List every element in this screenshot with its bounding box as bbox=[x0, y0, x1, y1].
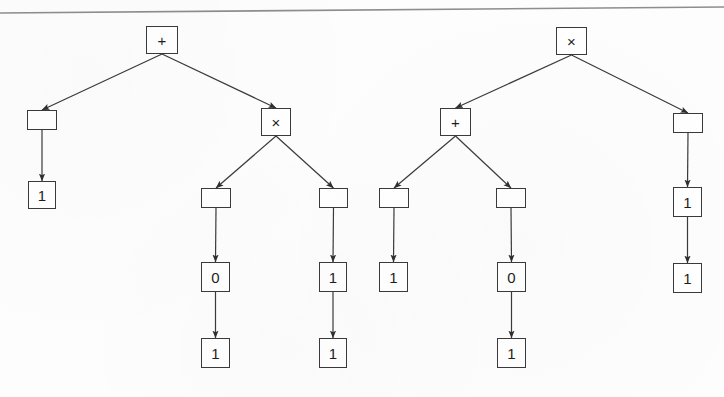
tree-node-leaf-1[interactable]: 1 bbox=[497, 338, 526, 368]
tree-node-label: + bbox=[158, 33, 167, 48]
tree-node-operator-times[interactable]: × bbox=[261, 108, 291, 136]
tree-edge bbox=[456, 136, 512, 188]
tree-edge bbox=[688, 133, 689, 187]
tree-node-label: 0 bbox=[211, 270, 219, 285]
tree-node-operator-plus[interactable]: + bbox=[146, 26, 178, 54]
tree-edge bbox=[456, 55, 572, 108]
tree-edge bbox=[216, 136, 276, 188]
tree-node-leaf-1[interactable]: 1 bbox=[201, 338, 230, 368]
tree-node-leaf-0[interactable]: 0 bbox=[201, 262, 230, 292]
edge-layer bbox=[0, 0, 724, 397]
tree-edge bbox=[162, 54, 276, 108]
tree-edge bbox=[42, 54, 162, 110]
tree-node-leaf-1[interactable]: 1 bbox=[28, 181, 56, 209]
tree-node-label: 1 bbox=[683, 195, 691, 210]
tree-node-blank[interactable] bbox=[379, 188, 409, 208]
tree-node-label: 1 bbox=[329, 346, 337, 361]
tree-node-label: 1 bbox=[683, 271, 691, 286]
tree-node-leaf-1[interactable]: 1 bbox=[379, 262, 408, 292]
tree-edge bbox=[276, 136, 334, 188]
tree-node-label: 1 bbox=[507, 346, 515, 361]
tree-edge bbox=[572, 55, 689, 113]
tree-node-label: 1 bbox=[211, 346, 219, 361]
tree-edge bbox=[394, 136, 456, 188]
tree-node-operator-plus[interactable]: + bbox=[440, 108, 471, 136]
tree-node-blank[interactable] bbox=[27, 110, 57, 130]
top-scan-line bbox=[0, 7, 724, 13]
tree-node-label: + bbox=[451, 115, 460, 130]
tree-edge bbox=[216, 208, 217, 262]
tree-node-label: 1 bbox=[389, 270, 397, 285]
tree-node-label: 1 bbox=[38, 188, 46, 203]
tree-node-label: × bbox=[272, 115, 281, 130]
tree-edge bbox=[511, 208, 512, 262]
tree-node-operator-times[interactable]: × bbox=[556, 27, 587, 55]
tree-node-blank[interactable] bbox=[673, 113, 703, 133]
tree-edges bbox=[42, 54, 688, 338]
tree-node-blank[interactable] bbox=[201, 188, 231, 208]
tree-node-label: × bbox=[567, 34, 576, 49]
tree-node-leaf-1[interactable]: 1 bbox=[319, 338, 347, 368]
tree-edge bbox=[394, 208, 395, 262]
tree-node-leaf-1[interactable]: 1 bbox=[673, 187, 702, 217]
tree-node-leaf-1[interactable]: 1 bbox=[319, 262, 347, 292]
tree-node-leaf-0[interactable]: 0 bbox=[497, 262, 526, 292]
tree-node-leaf-1[interactable]: 1 bbox=[673, 263, 702, 293]
tree-edge bbox=[333, 208, 334, 262]
tree-node-blank[interactable] bbox=[319, 188, 348, 208]
tree-node-label: 1 bbox=[329, 270, 337, 285]
tree-node-label: 0 bbox=[507, 270, 515, 285]
top-scan-line bbox=[0, 7, 724, 13]
diagram-canvas: +1×0111×+10111 bbox=[0, 0, 724, 397]
tree-node-blank[interactable] bbox=[496, 188, 526, 208]
